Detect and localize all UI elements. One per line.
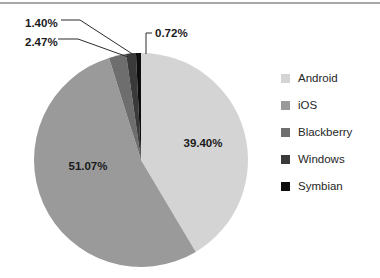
legend-item-blackberry[interactable]: Blackberry — [281, 124, 377, 140]
legend-label-ios: iOS — [298, 99, 317, 112]
slice-value-symbian: 0.72% — [155, 27, 188, 39]
slice-value-blackberry: 2.47% — [25, 36, 58, 48]
callout-leader-lines — [58, 20, 152, 57]
legend-label-symbian: Symbian — [298, 180, 343, 193]
legend-swatch-icon-blackberry — [281, 128, 290, 137]
leader-line-windows — [61, 20, 134, 55]
slice-value-ios: 51.07% — [68, 160, 107, 172]
slice-value-windows: 1.40% — [25, 17, 58, 29]
legend-swatch-icon-windows — [281, 155, 290, 164]
legend-label-windows: Windows — [298, 153, 345, 166]
slice-value-android: 39.40% — [183, 137, 222, 149]
leader-line-symbian — [146, 33, 152, 54]
legend-swatch-icon-ios — [281, 101, 290, 110]
legend-label-android: Android — [298, 72, 338, 85]
legend-swatch-icon-symbian — [281, 182, 290, 191]
legend-label-blackberry: Blackberry — [298, 126, 352, 139]
legend-item-ios[interactable]: iOS — [281, 97, 377, 113]
legend-item-symbian[interactable]: Symbian — [281, 178, 377, 194]
legend-item-android[interactable]: Android — [281, 70, 377, 86]
legend-item-windows[interactable]: Windows — [281, 151, 377, 167]
pie-slice-group — [34, 53, 248, 267]
legend-swatch-icon-android — [281, 74, 290, 83]
pie-chart-figure: 39.40% 51.07% 1.40% 2.47% 0.72% Android … — [0, 0, 380, 278]
leader-line-blackberry — [58, 39, 128, 57]
chart-legend: Android iOS Blackberry Windows Symbian — [281, 70, 377, 205]
